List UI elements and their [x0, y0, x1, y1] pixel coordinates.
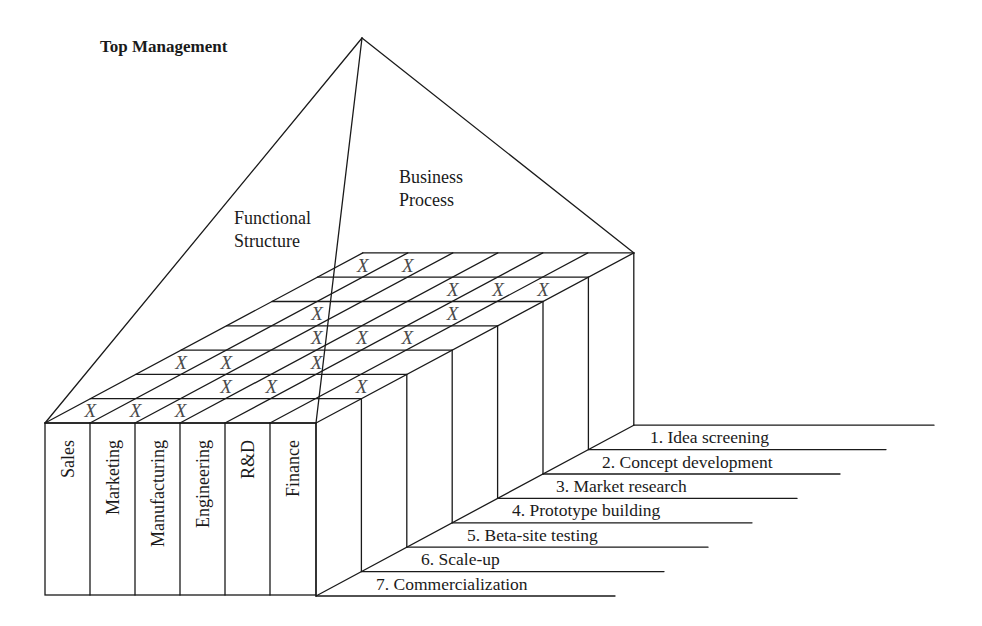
pyramid-edges	[45, 38, 634, 423]
department-label-marketing: Marketing	[103, 440, 123, 515]
process-step-label-1: 1. Idea screening	[650, 427, 769, 447]
matrix-cell: X	[219, 352, 233, 373]
business-process-label: Business Process	[399, 167, 463, 210]
matrix-cell: X	[310, 303, 324, 324]
department-label-rnd: R&D	[238, 440, 258, 479]
matrix-cell: X	[83, 400, 97, 421]
matrix-cell: X	[401, 255, 415, 276]
matrix-cell: X	[174, 400, 188, 421]
matrix-cell: X	[446, 279, 460, 300]
process-step-label-6: 6. Scale-up	[421, 549, 500, 569]
department-label-finance: Finance	[283, 440, 303, 497]
matrix-cell: X	[129, 400, 143, 421]
pyramid-middle-edge	[316, 38, 362, 423]
matrix-cell: X	[174, 352, 188, 373]
functional-label-line1: Functional	[234, 208, 311, 228]
matrix-cell: X	[356, 255, 370, 276]
matrix-cell: X	[310, 352, 324, 373]
business-label-line2: Process	[399, 190, 454, 210]
top-management-label: Top Management	[100, 37, 228, 56]
pyramid-right-edge	[362, 38, 634, 253]
department-label-manufacturing: Manufacturing	[148, 440, 168, 547]
matrix-cell: X	[310, 327, 324, 348]
process-step-labels: 1. Idea screening 2. Concept development…	[376, 427, 773, 594]
matrix-cell: X	[219, 376, 233, 397]
functional-structure-label: Functional Structure	[234, 208, 311, 251]
department-label-engineering: Engineering	[193, 440, 213, 528]
process-step-label-2: 2. Concept development	[602, 452, 773, 472]
department-label-sales: Sales	[58, 440, 78, 478]
matrix-cell: X	[264, 376, 278, 397]
functional-label-line2: Structure	[234, 231, 300, 251]
process-step-label-7: 7. Commercialization	[376, 574, 528, 594]
matrix-cell: X	[355, 376, 369, 397]
matrix-cell: X	[446, 303, 460, 324]
business-label-line1: Business	[399, 167, 463, 187]
matrix-marks: X X X X X X X X X X X X X	[83, 255, 550, 422]
matrix-cell: X	[491, 279, 505, 300]
process-step-label-3: 3. Market research	[556, 476, 687, 496]
process-step-label-4: 4. Prototype building	[512, 500, 661, 520]
matrix-cell: X	[536, 279, 550, 300]
matrix-cell: X	[355, 327, 369, 348]
front-face	[45, 423, 316, 595]
matrix-cell: X	[400, 327, 414, 348]
process-step-label-5: 5. Beta-site testing	[467, 525, 598, 545]
functional-process-matrix-diagram: Top Management Functional Structure Busi…	[0, 0, 982, 626]
